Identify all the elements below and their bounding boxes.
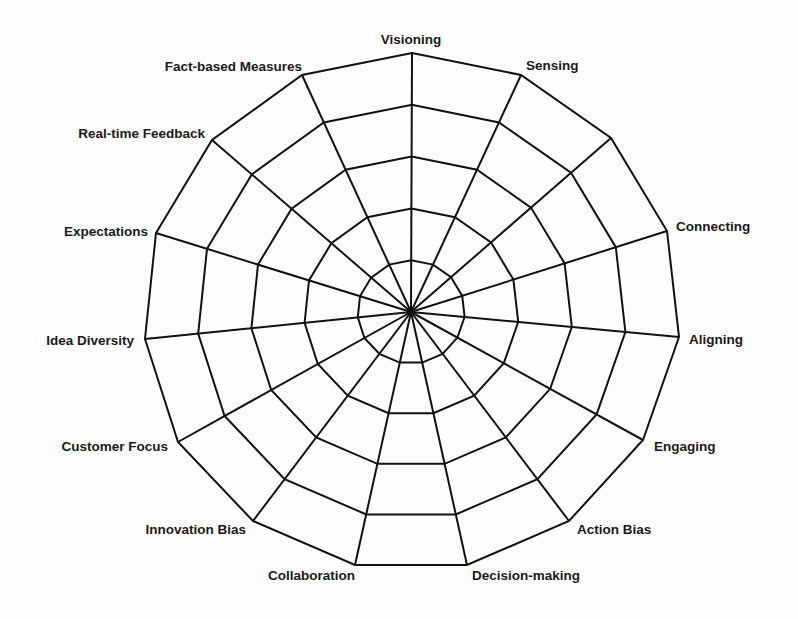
spoke-0 [411, 53, 412, 312]
spoke-14 [302, 75, 411, 312]
axis-label-sensing: Sensing [526, 59, 579, 73]
axis-label-connecting: Connecting [676, 220, 750, 234]
spoke-2 [411, 138, 611, 312]
spoke-12 [156, 233, 411, 312]
axis-label-collaboration: Collaboration [268, 569, 355, 583]
axis-label-visioning: Visioning [381, 33, 442, 47]
axis-label-decision-making: Decision-making [472, 569, 580, 583]
axis-label-idea-diversity: Idea Diversity [46, 334, 134, 348]
axis-label-aligning: Aligning [689, 333, 743, 347]
axis-label-action-bias: Action Bias [577, 523, 651, 537]
axis-label-expectations: Expectations [64, 225, 148, 239]
axis-label-innovation-bias: Innovation Bias [145, 523, 246, 537]
axis-label-engaging: Engaging [654, 440, 716, 454]
spider-web-diagram [0, 0, 798, 619]
spoke-1 [411, 75, 521, 312]
spoke-13 [212, 140, 411, 312]
axis-label-customer-focus: Customer Focus [61, 440, 168, 454]
spoke-3 [411, 231, 667, 312]
axis-label-fact-based-measures: Fact-based Measures [165, 60, 302, 74]
axis-label-real-time-feedback: Real-time Feedback [78, 127, 205, 141]
